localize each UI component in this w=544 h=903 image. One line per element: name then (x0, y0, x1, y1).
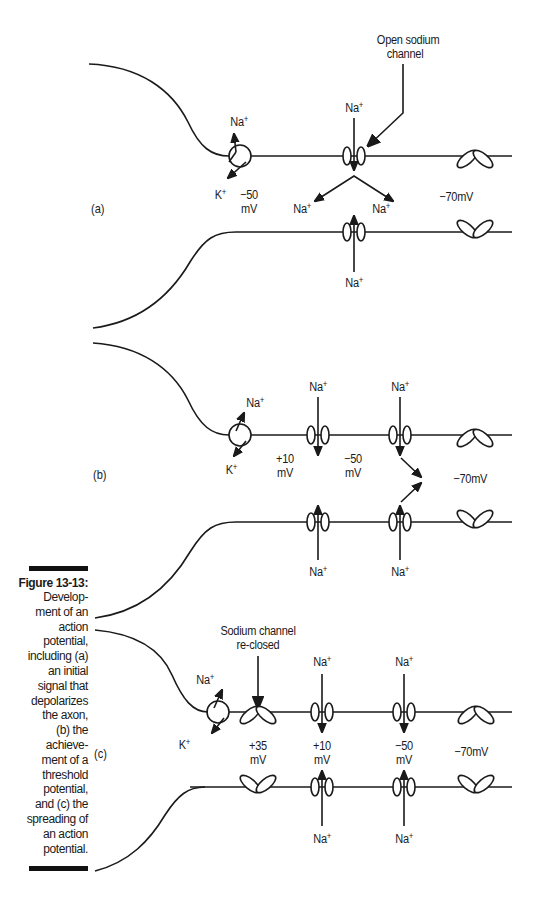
na-ion-label: Na+ (345, 276, 363, 290)
na-ion-label: Na+ (309, 565, 327, 579)
voltage-value: +35 (246, 739, 271, 753)
voltage-unit: mV (246, 753, 271, 767)
na-ion-label: Na+ (313, 655, 331, 669)
na-ion-label: Na+ (246, 396, 264, 410)
axon-bottom-curve (93, 232, 236, 328)
na-ion-label: Na+ (391, 565, 409, 579)
callout-line-1: Open sodium (377, 33, 433, 47)
na-ion-label: Na+ (196, 673, 214, 687)
callout-leader-line (368, 64, 403, 146)
panel-tag-c: (c) (94, 746, 107, 761)
panel-b (93, 343, 512, 618)
voltage-unit: mV (310, 753, 335, 767)
panel-tag-a: (a) (91, 201, 105, 216)
caption-title: Figure 13-13: (4, 576, 88, 590)
caption-text: Develop- ment of an action potential, in… (4, 590, 88, 856)
k-ion-label: K+ (226, 463, 237, 477)
na-ion-label: Na+ (230, 115, 248, 129)
callout-line-2: channel (377, 47, 433, 61)
na-ion-label: Na+ (345, 101, 363, 115)
voltage-label: −50 mV (237, 188, 262, 216)
reclosed-sodium-channel (238, 703, 279, 726)
voltage-label: +10 mV (273, 452, 298, 480)
axon-hillock-top-curve (89, 64, 229, 156)
voltage-unit: mV (392, 753, 417, 767)
open-sodium-channel-right (357, 147, 365, 165)
na-ion-label: Na+ (309, 380, 327, 394)
open-sodium-channel-left (343, 147, 351, 165)
na-ion-label: Na+ (313, 832, 331, 846)
na-ion-label: Na+ (372, 202, 390, 216)
figure-caption: Figure 13-13: Develop- ment of an action… (4, 566, 88, 871)
callout-line-2: re-closed (215, 638, 301, 652)
na-ion-label: Na+ (391, 380, 409, 394)
voltage-unit: mV (237, 202, 262, 216)
resting-potential-label: −70mV (454, 745, 488, 759)
resting-potential-label: −70mV (453, 472, 487, 486)
caption-rule-top (29, 566, 88, 571)
na-ion-label: Na+ (395, 832, 413, 846)
voltage-label: +10 mV (310, 739, 335, 767)
voltage-unit: mV (341, 466, 366, 480)
closed-channel-bottom (455, 217, 496, 240)
voltage-value: +10 (273, 452, 298, 466)
callout-line-1: Sodium channel (215, 624, 301, 638)
voltage-label: +35 mV (246, 739, 271, 767)
spread-forward-arrow-top (401, 458, 421, 477)
voltage-value: −50 (237, 188, 262, 202)
voltage-value: +10 (310, 739, 335, 753)
callout-open-sodium-channel: Open sodium channel (377, 33, 433, 61)
voltage-value: −50 (341, 452, 366, 466)
na-ion-label: Na+ (293, 202, 311, 216)
voltage-value: −50 (392, 739, 417, 753)
spread-forward-arrow-bottom (401, 483, 421, 502)
resting-potential-label: −70mV (439, 190, 473, 204)
caption-rule-bottom (29, 866, 88, 871)
voltage-label: −50 mV (341, 452, 366, 480)
k-ion-label: K+ (215, 188, 226, 202)
panel-tag-b: (b) (93, 467, 107, 482)
na-spread-lines (315, 176, 393, 201)
closed-channel-top (455, 147, 496, 170)
callout-sodium-channel-reclosed: Sodium channel re-closed (215, 624, 301, 652)
voltage-label: −50 mV (392, 739, 417, 767)
panel-c (95, 630, 512, 871)
na-ion-label: Na+ (395, 655, 413, 669)
voltage-unit: mV (273, 466, 298, 480)
k-out-arrow (228, 162, 246, 178)
k-ion-label: K+ (179, 738, 190, 752)
